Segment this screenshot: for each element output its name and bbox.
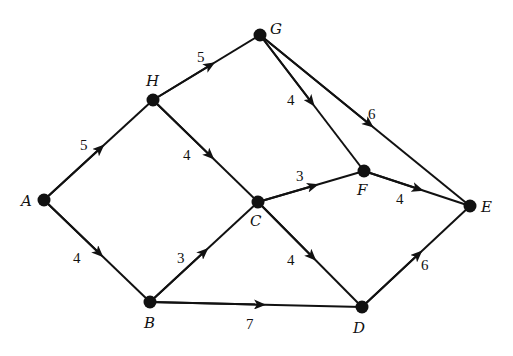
node-label-H: H: [145, 72, 160, 90]
weight-B-D: 7: [246, 316, 254, 332]
node-E: E: [464, 198, 493, 216]
edge-A-H: 5: [44, 100, 153, 200]
weight-G-E: 6: [368, 106, 376, 122]
node-F: F: [356, 165, 371, 200]
edge-F-E: 4: [364, 171, 470, 207]
node-label-G: G: [270, 20, 282, 38]
graph-diagram: 5 4 5 4 4 6 3 7 3 4: [0, 0, 513, 356]
edge-C-F: 3: [258, 168, 364, 202]
weight-C-F: 3: [296, 168, 304, 184]
weight-A-H: 5: [80, 137, 88, 153]
edge-H-G: 5: [153, 35, 260, 100]
edge-D-E: 6: [362, 206, 470, 307]
node-H: H: [145, 72, 160, 107]
edge-G-F: 4: [260, 35, 364, 171]
weight-H-G: 5: [197, 49, 205, 65]
node-label-B: B: [143, 314, 155, 332]
node-G: G: [254, 20, 283, 42]
weight-C-D: 4: [287, 252, 295, 268]
weight-D-E: 6: [421, 257, 429, 273]
node-C: C: [250, 196, 265, 231]
weight-B-C: 3: [177, 250, 185, 266]
node-label-F: F: [356, 181, 368, 199]
node-label-D: D: [352, 319, 365, 337]
edge-B-C: 3: [150, 202, 258, 302]
node-label-E: E: [480, 198, 492, 216]
edge-A-B: 4: [44, 200, 150, 302]
weight-G-F: 4: [287, 92, 295, 108]
weight-H-C: 4: [183, 147, 191, 163]
node-label-C: C: [250, 212, 262, 230]
edge-B-D: 7: [150, 302, 362, 332]
node-label-A: A: [19, 192, 32, 210]
node-A: A: [19, 192, 51, 210]
edge-C-D: 4: [258, 202, 362, 307]
weight-F-E: 4: [396, 191, 404, 207]
weight-A-B: 4: [73, 250, 81, 266]
node-B: B: [143, 296, 157, 333]
edge-H-C: 4: [153, 100, 258, 202]
